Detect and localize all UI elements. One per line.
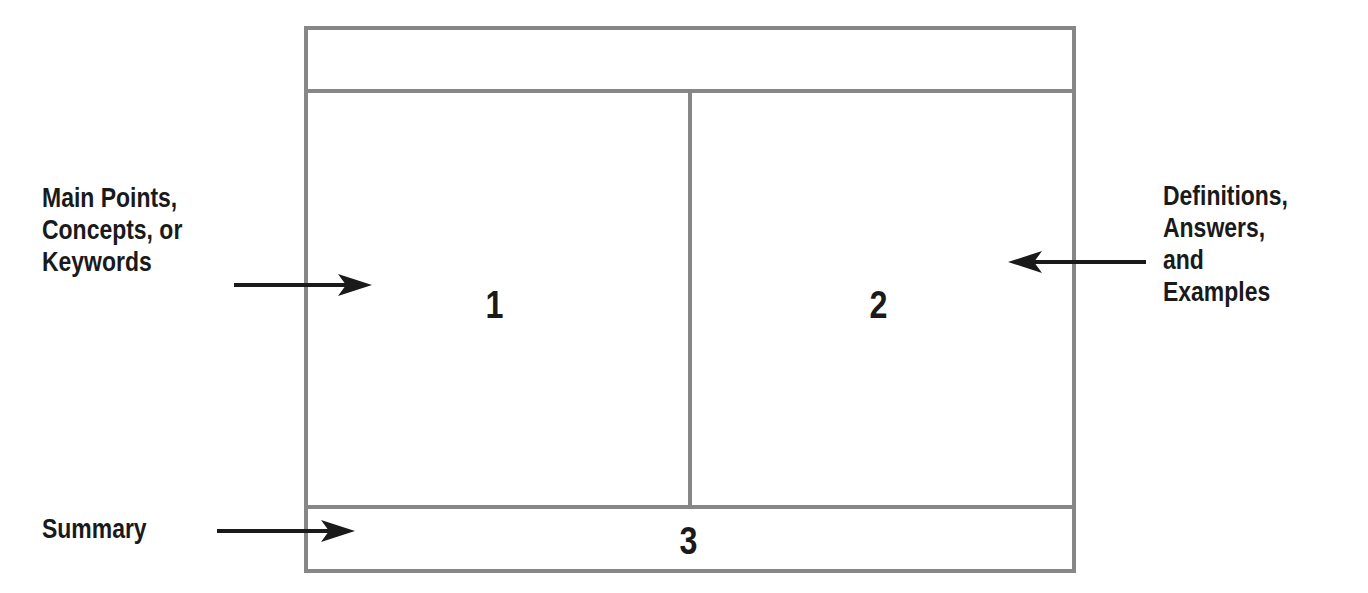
- label-main-points: Main Points, Concepts, or Keywords: [42, 182, 182, 278]
- header-section: [308, 30, 1072, 89]
- arrow-left-icon: [1006, 249, 1146, 275]
- column-divider: [688, 89, 692, 509]
- section-number-3: 3: [680, 522, 698, 560]
- arrow-summary-icon: [217, 518, 357, 544]
- section-number-1: 1: [486, 286, 504, 324]
- label-line: Answers,: [1163, 212, 1288, 244]
- section-number-2: 2: [870, 286, 888, 324]
- label-line: Definitions,: [1163, 180, 1288, 212]
- label-line: Keywords: [42, 246, 182, 278]
- label-definitions: Definitions, Answers, and Examples: [1163, 180, 1288, 308]
- label-line: Concepts, or: [42, 214, 182, 246]
- label-line: and: [1163, 244, 1288, 276]
- arrow-right-icon: [234, 272, 374, 298]
- label-line: Examples: [1163, 276, 1288, 308]
- label-line: Main Points,: [42, 182, 182, 214]
- label-summary: Summary: [42, 513, 147, 545]
